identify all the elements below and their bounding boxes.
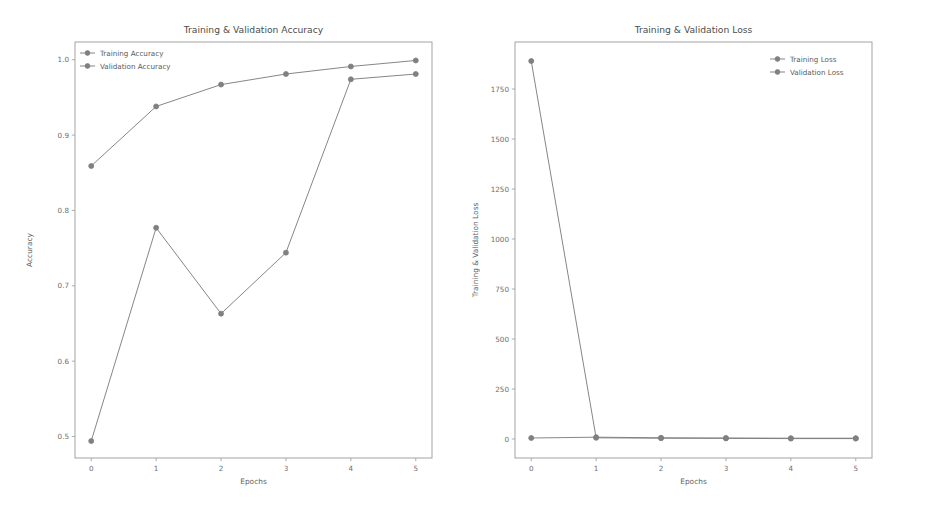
y-tick-label: 1.0 [58,55,70,64]
data-point[interactable] [154,104,159,109]
y-tick-label: 1250 [491,185,510,194]
data-point[interactable] [219,311,224,316]
legend-marker-1[interactable] [85,64,90,69]
data-point[interactable] [89,163,94,168]
x-tick-label: 3 [284,464,289,473]
x-tick-label: 4 [349,464,354,473]
legend-marker-0[interactable] [775,57,780,62]
data-point[interactable] [594,435,599,440]
y-axis-title: Accuracy [25,233,34,267]
chart-title: Training & Validation Accuracy [183,24,324,35]
y-axis-title: Training & Validation Loss [471,203,480,299]
y-tick-label: 0.8 [58,206,70,215]
data-point[interactable] [659,435,664,440]
y-tick-label: 1000 [491,235,510,244]
legend-label-0[interactable]: Training Accuracy [99,49,164,58]
x-tick-label: 5 [853,464,858,473]
x-tick-label: 2 [659,464,664,473]
data-point[interactable] [348,64,353,69]
data-point[interactable] [283,250,288,255]
x-tick-label: 4 [789,464,794,473]
x-tick-label: 1 [594,464,599,473]
data-point[interactable] [154,225,159,230]
y-tick-label: 0.7 [58,281,69,290]
series-line-1[interactable] [531,437,856,438]
y-tick-label: 1500 [491,135,510,144]
y-tick-label: 0.5 [58,432,69,441]
y-tick-label: 0 [504,435,509,444]
legend-marker-1[interactable] [775,70,780,75]
x-axis-title: Epochs [680,477,707,486]
chart-title: Training & Validation Loss [634,24,753,35]
x-tick-label: 2 [219,464,224,473]
x-axis-title: Epochs [240,477,267,486]
accuracy-panel: Training & Validation Accuracy0123450.50… [0,0,464,509]
y-tick-label: 1750 [491,85,510,94]
x-tick-label: 3 [724,464,729,473]
plot-frame [515,42,872,458]
legend-marker-0[interactable] [85,51,90,56]
legend-label-1[interactable]: Validation Loss [790,68,844,77]
data-point[interactable] [413,58,418,63]
loss-panel: Training & Validation Loss01234502505007… [464,0,928,509]
legend-label-0[interactable]: Training Loss [789,55,837,64]
data-point[interactable] [89,439,94,444]
series-line-0[interactable] [531,61,856,439]
data-point[interactable] [348,77,353,82]
x-tick-label: 0 [529,464,534,473]
y-tick-label: 250 [495,385,509,394]
y-tick-label: 750 [495,285,509,294]
data-point[interactable] [723,436,728,441]
plot-frame [75,42,432,458]
x-tick-label: 0 [89,464,94,473]
data-point[interactable] [853,436,858,441]
data-point[interactable] [529,59,534,64]
y-tick-label: 500 [495,335,509,344]
y-tick-label: 0.9 [58,131,70,140]
x-tick-label: 5 [413,464,418,473]
x-tick-label: 1 [154,464,159,473]
data-point[interactable] [529,436,534,441]
figure-canvas: Training & Validation Accuracy0123450.50… [0,0,928,509]
y-tick-label: 0.6 [58,357,70,366]
data-point[interactable] [219,82,224,87]
data-point[interactable] [788,436,793,441]
series-line-1[interactable] [91,74,416,441]
accuracy-chart-svg[interactable]: Training & Validation Accuracy0123450.50… [0,0,464,509]
legend-label-1[interactable]: Validation Accuracy [100,62,171,71]
data-point[interactable] [283,72,288,77]
series-line-0[interactable] [91,60,416,166]
loss-chart-svg[interactable]: Training & Validation Loss01234502505007… [464,0,928,509]
data-point[interactable] [413,72,418,77]
